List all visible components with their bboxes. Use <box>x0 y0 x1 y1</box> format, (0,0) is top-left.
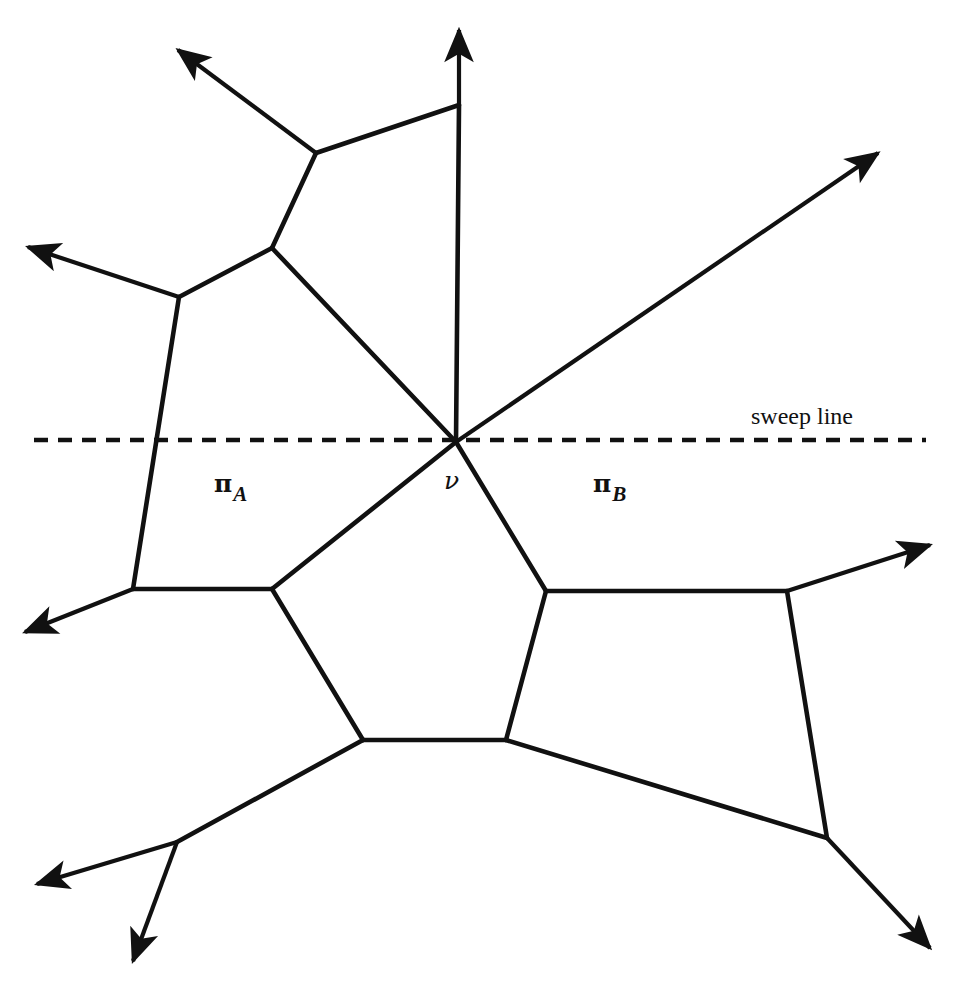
pi-subscript-b: B <box>611 482 626 506</box>
region-label-pi-b: πB <box>593 468 626 507</box>
pi-subscript-a: A <box>232 482 247 506</box>
sweep-line-label: sweep line <box>751 403 853 430</box>
pi-glyph-b: π <box>593 469 611 498</box>
diagram-background <box>0 0 960 989</box>
vertex-label-nu: ν <box>444 466 459 495</box>
pi-glyph-a: π <box>214 469 232 498</box>
subdivision-edge <box>456 105 459 442</box>
region-label-pi-a: πA <box>214 468 247 507</box>
subdivision-diagram <box>0 0 960 989</box>
